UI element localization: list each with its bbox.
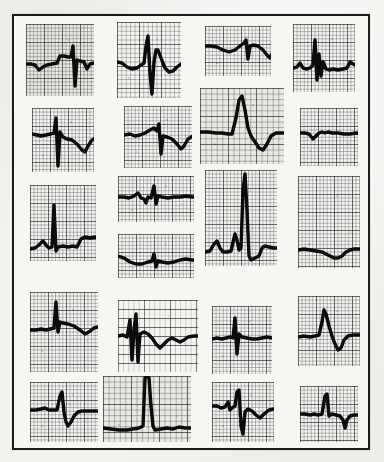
ecg-waveform-trace — [32, 108, 94, 172]
ecg-waveform-trace — [30, 292, 98, 372]
ecg-strip — [300, 386, 358, 442]
ecg-strip — [298, 176, 360, 268]
ecg-waveform-trace — [293, 24, 355, 92]
ecg-strip — [26, 24, 94, 96]
ecg-waveform-trace — [118, 176, 194, 222]
ecg-strip — [118, 176, 194, 222]
ecg-waveform-trace — [212, 382, 274, 442]
ecg-strip — [212, 306, 272, 374]
ecg-waveform-trace — [30, 185, 96, 261]
ecg-strip — [300, 108, 358, 166]
ecg-strip — [124, 106, 192, 168]
figure-frame-border — [12, 14, 370, 450]
ecg-strip — [200, 88, 284, 164]
ecg-waveform-trace — [118, 300, 198, 372]
ecg-waveform-trace — [26, 24, 94, 96]
ecg-strip — [212, 382, 274, 442]
ecg-strip — [298, 296, 360, 366]
ecg-strip — [117, 22, 181, 98]
ecg-strip — [118, 300, 198, 372]
ecg-waveform-trace — [124, 106, 192, 168]
ecg-waveform-trace — [205, 26, 271, 76]
ecg-waveform-trace — [300, 108, 358, 166]
ecg-waveform-trace — [118, 234, 194, 278]
ecg-strip — [30, 292, 98, 372]
ecg-waveform-trace — [212, 306, 272, 374]
ecg-waveform-trace — [298, 176, 360, 268]
ecg-strip — [293, 24, 355, 92]
ecg-strip — [118, 234, 194, 278]
ecg-strip — [205, 170, 277, 266]
ecg-waveform-trace — [103, 376, 191, 442]
ecg-waveform-trace — [200, 88, 284, 164]
ecg-strip — [205, 26, 271, 76]
ecg-waveform-trace — [205, 170, 277, 266]
ecg-waveform-trace — [30, 382, 98, 442]
ecg-strip — [103, 376, 191, 442]
ecg-strip — [30, 185, 96, 261]
ecg-waveform-trace — [298, 296, 360, 366]
ecg-strip — [30, 382, 98, 442]
ecg-strip — [32, 108, 94, 172]
ecg-waveform-trace — [117, 22, 181, 98]
ecg-waveform-trace — [300, 386, 358, 442]
figure-page — [0, 0, 384, 462]
